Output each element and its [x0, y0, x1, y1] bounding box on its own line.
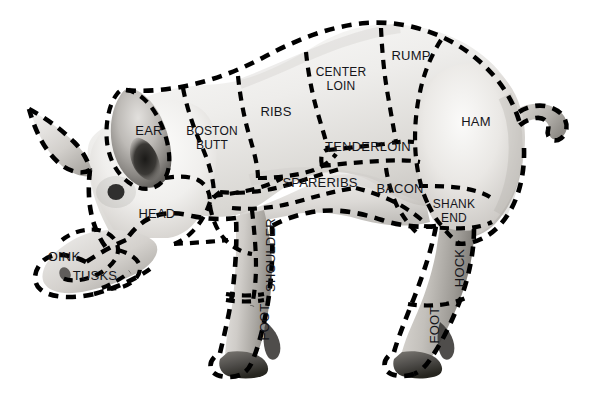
cut-label-oink: OINK — [48, 249, 81, 264]
cutline-shoulder-bottom — [226, 294, 264, 296]
cut-label-spareribs: SPARERIBS — [282, 175, 357, 190]
cut-label-bacon: BACON — [376, 181, 423, 196]
cut-label-foot-rear: FOOT — [427, 307, 442, 344]
cut-label-ribs: RIBS — [260, 104, 291, 119]
cut-label-tusks: TUSKS — [73, 268, 117, 283]
pig-ear-back — [30, 110, 92, 177]
cut-label-foot-front: FOOT — [257, 304, 272, 341]
pig-illustration: EARBOSTONBUTTRIBSCENTERLOINRUMPHAMTENDER… — [0, 0, 599, 404]
cut-label-ham: HAM — [461, 114, 491, 129]
cut-label-ear: EAR — [135, 123, 162, 138]
cutline-front-foot-top — [226, 300, 264, 302]
cut-label-hock: HOCK — [452, 249, 467, 287]
cut-label-head: HEAD — [139, 206, 176, 221]
pig-cuts-diagram: EARBOSTONBUTTRIBSCENTERLOINRUMPHAMTENDER… — [0, 0, 599, 404]
cut-label-tenderloin: TENDERLOIN — [325, 139, 411, 154]
pig-eye-socket-shadow — [96, 176, 136, 208]
cut-label-shoulder: SHOULDER — [263, 218, 278, 292]
cut-label-rump: RUMP — [391, 48, 430, 63]
pig-front-hoof — [219, 351, 268, 378]
